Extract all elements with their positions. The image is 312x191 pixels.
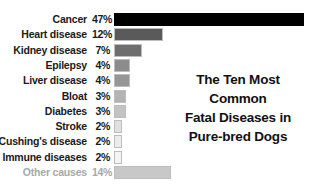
bar-row: Immune diseases2% <box>0 150 312 165</box>
category-label: Kidney disease <box>13 44 87 57</box>
bar <box>114 135 122 148</box>
value-label: 4% <box>92 59 110 72</box>
category-label: Stroke <box>56 120 87 133</box>
bar <box>114 166 171 179</box>
bar-row: Heart disease12% <box>0 27 312 42</box>
value-label: 12% <box>92 28 110 41</box>
value-label: 7% <box>92 44 110 57</box>
category-label: Bloat <box>62 90 87 103</box>
bar <box>114 59 130 72</box>
bar <box>114 90 126 103</box>
category-label: Diabetes <box>45 105 87 118</box>
category-label: Liver disease <box>23 74 87 87</box>
value-label: 47% <box>92 13 110 26</box>
value-label: 4% <box>92 74 110 87</box>
category-label: Heart disease <box>21 28 87 41</box>
bar <box>114 74 130 87</box>
chart-title-line-3: Pure-bred Dogs <box>168 127 308 146</box>
category-label: Epilepsy <box>45 59 87 72</box>
chart-title-line-2: Fatal Diseases in <box>168 108 308 127</box>
category-label: Cancer <box>53 13 87 26</box>
category-label: Other causes <box>23 166 87 179</box>
bar-row: Kidney disease7% <box>0 43 312 58</box>
value-label: 3% <box>92 105 110 118</box>
bar <box>114 28 163 41</box>
bar-row: Other causes14% <box>0 165 312 180</box>
bar <box>114 120 122 133</box>
bar <box>114 13 304 26</box>
value-label: 2% <box>92 151 110 164</box>
chart-title-line-1: The Ten Most Common <box>168 70 308 108</box>
bar-row: Cancer47% <box>0 12 312 27</box>
value-label: 2% <box>92 135 110 148</box>
chart-title: The Ten Most Common Fatal Diseases in Pu… <box>168 70 308 146</box>
category-label: Immune diseases <box>2 151 87 164</box>
value-label: 14% <box>92 166 110 179</box>
category-label: Cushing's disease <box>0 135 87 148</box>
bar <box>114 44 142 57</box>
value-label: 3% <box>92 90 110 103</box>
value-label: 2% <box>92 120 110 133</box>
bar <box>114 151 122 164</box>
bar <box>114 105 126 118</box>
